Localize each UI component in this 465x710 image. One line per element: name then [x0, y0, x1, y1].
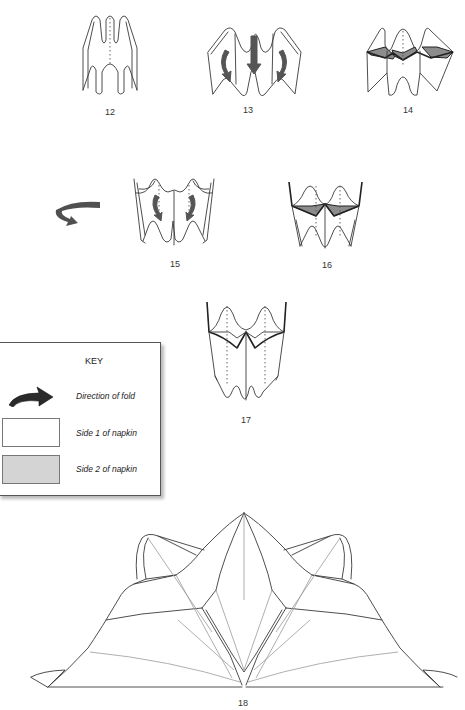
step-12-illustration: [80, 10, 140, 95]
key-title: KEY: [85, 356, 103, 366]
step-18: 18: [30, 520, 450, 690]
legend-key: KEY Direction of fold Side 1 of napkin S…: [0, 342, 161, 496]
step-15-illustration: [133, 175, 215, 247]
swatch-side-2: [2, 455, 60, 484]
step-17-illustration: [207, 300, 287, 405]
step-number: 15: [160, 259, 190, 269]
step-number: 14: [393, 105, 423, 115]
fold-arrow-left-icon: [222, 50, 232, 82]
step-number: 13: [233, 105, 263, 115]
step-16: 16: [288, 180, 363, 252]
fold-arrow-right-icon: [186, 195, 195, 221]
step-18-illustration: [30, 520, 450, 690]
turn-over-arrow-icon: [52, 198, 102, 230]
step-number: 12: [95, 107, 125, 117]
step-17: 17: [207, 300, 287, 405]
step-13: 13: [203, 22, 303, 97]
step-14-illustration: [365, 25, 455, 95]
step-number: 17: [231, 415, 261, 425]
key-label-side-1: Side 1 of napkin: [76, 428, 137, 438]
turn-over-arrow: [52, 198, 102, 230]
step-12: 12: [80, 10, 140, 95]
fold-arrow-right-icon: [277, 50, 287, 82]
key-label-fold-direction: Direction of fold: [76, 391, 135, 401]
step-15: 15: [133, 175, 215, 247]
fold-arrow-down-icon: [247, 36, 261, 74]
fold-direction-arrow-icon: [7, 385, 55, 407]
step-13-illustration: [203, 22, 303, 97]
swatch-side-1: [2, 418, 60, 447]
key-label-side-2: Side 2 of napkin: [76, 464, 137, 474]
step-number: 18: [228, 698, 258, 708]
step-16-illustration: [288, 180, 363, 252]
step-14: 14: [365, 25, 455, 95]
step-number: 16: [312, 260, 342, 270]
fold-arrow-left-icon: [153, 195, 162, 221]
